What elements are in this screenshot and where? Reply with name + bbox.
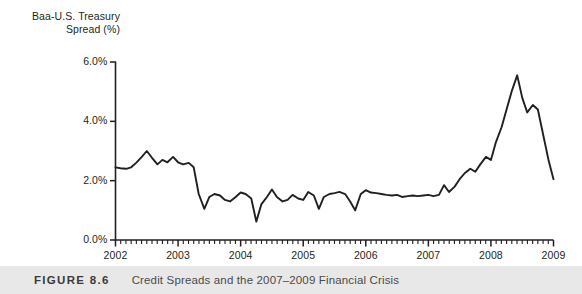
chart-tick-marks (110, 62, 554, 247)
figure-caption-text: Credit Spreads and the 2007–2009 Financi… (132, 274, 400, 286)
figure-container: Baa-U.S. Treasury Spread (%) 0.0%2.0%4.0… (0, 0, 582, 294)
figure-caption-inner: FIGURE 8.6 Credit Spreads and the 2007–2… (0, 274, 399, 286)
x-axis-tick-label: 2002 (93, 249, 139, 261)
figure-number-label: FIGURE 8.6 (34, 274, 110, 286)
spread-series-line (116, 75, 554, 221)
y-axis-tick-label: 6.0% (62, 55, 108, 67)
figure-caption-bar: FIGURE 8.6 Credit Spreads and the 2007–2… (0, 266, 582, 294)
chart-axes (116, 62, 554, 241)
y-axis-tick-label: 0.0% (62, 233, 108, 245)
x-axis-tick-label: 2004 (218, 249, 264, 261)
x-axis-tick-label: 2009 (531, 249, 577, 261)
x-axis-tick-label: 2005 (280, 249, 326, 261)
x-axis-tick-label: 2003 (155, 249, 201, 261)
x-axis-tick-label: 2006 (343, 249, 389, 261)
x-axis-tick-label: 2008 (468, 249, 514, 261)
chart-plot-area: Baa-U.S. Treasury Spread (%) 0.0%2.0%4.0… (0, 0, 582, 262)
y-axis-tick-label: 4.0% (62, 114, 108, 126)
y-axis-tick-label: 2.0% (62, 174, 108, 186)
line-chart-svg (0, 0, 582, 262)
x-axis-tick-label: 2007 (405, 249, 451, 261)
